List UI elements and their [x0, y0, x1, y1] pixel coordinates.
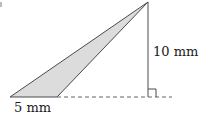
height-label: 10 mm	[153, 45, 198, 58]
right-angle-mark	[148, 89, 156, 97]
triangle-figure: 10 mm 5 mm	[0, 0, 204, 118]
base-label: 5 mm	[14, 101, 51, 114]
shaded-triangle	[10, 2, 148, 97]
